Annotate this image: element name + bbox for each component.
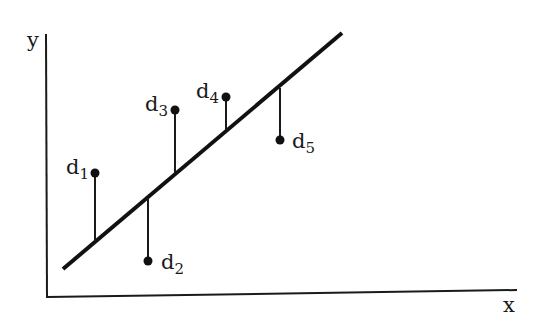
point-label-subscript: 1: [79, 165, 89, 183]
point-label-subscript: 2: [174, 260, 184, 278]
point-label: d3: [145, 94, 168, 119]
data-point-marker: [276, 136, 285, 145]
data-point-marker: [91, 169, 100, 178]
point-label-name: d: [145, 92, 158, 116]
x-axis: [47, 290, 517, 297]
y-axis-label: y: [27, 30, 39, 51]
point-label-name: d: [292, 129, 305, 153]
data-points-group: [91, 88, 285, 266]
data-point-marker: [222, 93, 231, 102]
data-point-marker: [171, 106, 180, 115]
x-axis-label: x: [503, 295, 515, 316]
point-label-name: d: [196, 79, 209, 103]
point-label: d5: [292, 131, 315, 156]
data-point-marker: [144, 257, 153, 266]
point-label-subscript: 5: [305, 139, 315, 157]
y-axis: [46, 34, 47, 298]
point-label-name: d: [66, 155, 79, 179]
point-label-subscript: 3: [158, 102, 168, 120]
point-label-subscript: 4: [209, 89, 219, 107]
point-label: d2: [161, 252, 184, 277]
point-label-name: d: [161, 250, 174, 274]
point-label: d1: [66, 157, 89, 182]
point-label: d4: [196, 81, 219, 106]
